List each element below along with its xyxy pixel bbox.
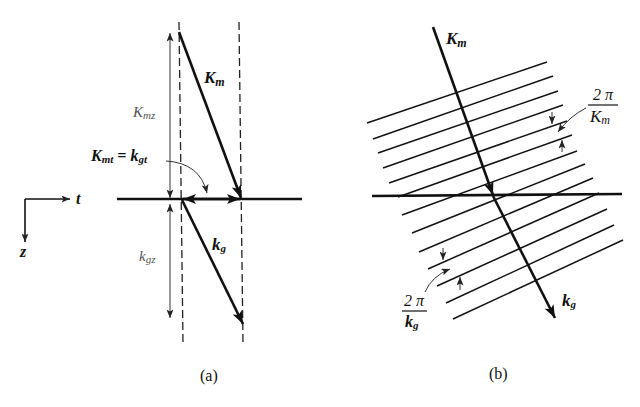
boundary-line-b (372, 194, 622, 196)
panel-a: Km Kmz Kmt = kgt kg kgz (a) (90, 22, 302, 385)
km-spacing-denominator: Km (589, 107, 610, 127)
wave-vector-diagram: t z Km Kmz Kmt = kgt (0, 0, 640, 407)
grating-line (428, 193, 599, 269)
axis-legend: t z (19, 190, 81, 260)
grating-line (412, 164, 585, 233)
grating-line (419, 178, 593, 252)
kg-label: kg (212, 235, 227, 254)
equation-pointer-arrow-icon (166, 161, 207, 193)
kg-spacing-fraction: 2 π kg (402, 292, 427, 331)
km-label-b: Km (445, 29, 467, 50)
km-vector-arrow (179, 32, 241, 198)
kg-vector-arrow (182, 200, 243, 324)
km-spacing-pointer-arrow-icon (558, 108, 586, 132)
grating-line (398, 135, 572, 197)
panel-b-caption: (b) (489, 365, 508, 383)
kmz-label: Kmz (132, 104, 156, 121)
phase-matching-equation: Kmt = kgt (90, 147, 148, 165)
kg-spacing-numerator: 2 π (404, 292, 425, 309)
kg-spacing-pointer-arrow-icon (425, 269, 450, 292)
panel-a-caption: (a) (200, 367, 218, 385)
t-axis-label: t (76, 190, 81, 207)
z-axis-label: z (19, 243, 27, 260)
km-spacing-numerator: 2 π (593, 86, 614, 103)
grating-lines (367, 62, 623, 319)
km-label: Km (203, 68, 225, 89)
left-dashed-guide (179, 22, 183, 344)
kgz-label: kgz (139, 248, 156, 265)
right-dashed-guide (239, 22, 243, 344)
panel-b: Km 2 π Km 2 π kg kg (b) (367, 27, 623, 383)
grating-line (446, 225, 614, 303)
kg-spacing-denominator: kg (405, 313, 419, 331)
grating-line (453, 240, 623, 319)
km-vector-arrow-b (433, 27, 493, 195)
km-spacing-fraction: 2 π Km (588, 86, 618, 127)
grating-line (437, 209, 607, 286)
kg-label-b: kg (562, 291, 577, 310)
